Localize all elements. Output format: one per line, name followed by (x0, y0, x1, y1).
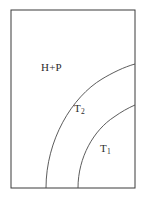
region-label-hp-text: H+P (41, 61, 62, 73)
region-label-t1-text: T (100, 142, 107, 154)
phase-diagram-svg (0, 0, 145, 198)
region-label-t1-subscript: 1 (107, 147, 111, 156)
region-label-t1: T1 (100, 143, 111, 156)
diagram-frame-border (11, 10, 135, 188)
region-label-t2: T2 (74, 103, 85, 116)
region-label-t2-subscript: 2 (81, 107, 85, 116)
region-label-h-plus-p: H+P (41, 62, 62, 75)
figure-root: H+P T2 T1 (0, 0, 145, 198)
region-label-t2-text: T (74, 102, 81, 114)
